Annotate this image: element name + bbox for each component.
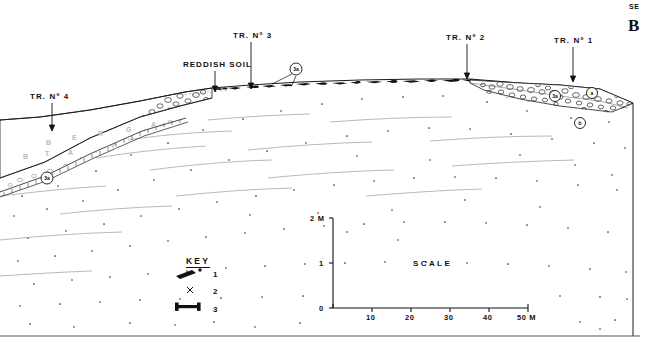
bed-letter-1: E <box>72 134 78 141</box>
label-trench-1: TR. Nº 1 <box>554 36 593 45</box>
bed-letter-8: C <box>112 143 118 150</box>
orientation-label-se: SE <box>629 3 640 10</box>
bed-letter-0: B <box>46 139 52 146</box>
scale-title: SCALE <box>413 259 452 268</box>
bed-letter-5: B <box>23 153 29 160</box>
key-title: KEY <box>186 256 210 268</box>
marker-label-a-3: a <box>587 90 598 96</box>
scale-y-label-2: 2 M <box>310 214 325 223</box>
cross-section-drawing <box>0 0 653 352</box>
bed-letter-4: A <box>151 121 157 128</box>
bed-letter-6: T <box>45 150 50 157</box>
scale-x-label-20: 20 <box>405 313 415 322</box>
scale-x-label-10: 10 <box>366 313 376 322</box>
key-item-1-number: 1 <box>213 270 217 279</box>
figure-canvas: TR. Nº 4TR. Nº 3TR. Nº 2TR. Nº 1REDDISH … <box>0 0 653 352</box>
arrow-trench-2-head <box>464 73 469 79</box>
arrow-reddish-soil <box>212 71 217 92</box>
marker-label-3a-2: 3a <box>550 93 561 99</box>
bed-letter-2: R <box>98 130 104 137</box>
arrow-trench-1 <box>570 47 575 82</box>
scale-x-label-50: 50 M <box>517 313 536 322</box>
bed-letter-7: A <box>68 149 74 156</box>
scale-y-label-0: 0 <box>319 304 324 313</box>
key-item-3-number: 3 <box>213 305 217 314</box>
arrow-trench-1-head <box>570 76 575 82</box>
label-trench-2: TR. Nº 2 <box>446 33 485 42</box>
figure-id-label: B <box>628 16 639 36</box>
arrow-trench-2 <box>464 44 469 79</box>
bed-letter-3: G <box>126 126 132 133</box>
marker-label-3a-0: 3a <box>290 66 302 72</box>
arrow-trench-3-head <box>248 83 253 89</box>
label-trench-4: TR. Nº 4 <box>30 92 69 101</box>
scale-y-label-1: 1 <box>319 259 324 268</box>
marker-label-b-4: b <box>575 120 586 126</box>
marker-label-3a-1: 3a <box>41 175 53 181</box>
scale-x-label-30: 30 <box>444 313 454 322</box>
label-trench-3: TR. Nº 3 <box>233 31 272 40</box>
scale-x-label-40: 40 <box>483 313 493 322</box>
key-item-2-number: 2 <box>213 287 217 296</box>
label-reddish-soil: REDDISH SOIL <box>183 60 252 69</box>
